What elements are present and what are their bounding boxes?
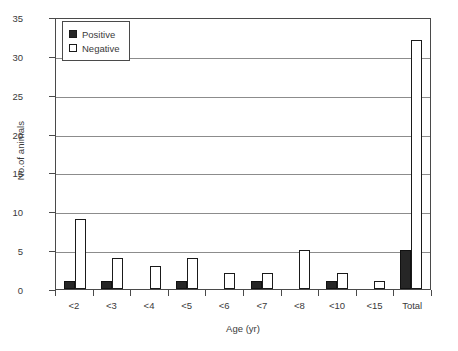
bar-group — [280, 19, 317, 289]
x-tick-label: Total — [382, 300, 442, 311]
x-axis-title: Age (yr) — [55, 323, 431, 334]
bar-group — [243, 19, 280, 289]
x-tick-mark — [243, 290, 244, 296]
y-tick-label: 15 — [0, 168, 23, 179]
bar-group — [131, 19, 168, 289]
y-tick-label: 0 — [0, 285, 23, 296]
x-tick-mark — [205, 290, 206, 296]
x-tick-mark — [393, 290, 394, 296]
chart-figure: No.of animals 05101520253035 <2<3<4<5<6<… — [0, 0, 458, 351]
x-tick-mark — [318, 290, 319, 296]
bar-positive — [64, 281, 75, 289]
x-tick-mark — [431, 290, 432, 296]
bar-negative — [187, 258, 198, 289]
bar-group — [393, 19, 430, 289]
y-tick-label: 25 — [0, 90, 23, 101]
legend-label: Positive — [82, 29, 115, 40]
y-axis-title: No.of animals — [15, 81, 26, 221]
y-tick-label: 10 — [0, 207, 23, 218]
x-tick-mark — [130, 290, 131, 296]
bar-group — [355, 19, 392, 289]
bar-positive — [400, 250, 411, 289]
bar-negative — [299, 250, 310, 289]
x-tick-mark — [281, 290, 282, 296]
bar-negative — [374, 281, 385, 289]
chart-legend: PositiveNegative — [62, 21, 130, 61]
bar-negative — [262, 273, 273, 289]
x-tick-mark — [93, 290, 94, 296]
bar-positive — [251, 281, 262, 289]
bar-positive — [326, 281, 337, 289]
bar-negative — [150, 266, 161, 289]
y-tick-label: 30 — [0, 51, 23, 62]
y-tick-label: 5 — [0, 246, 23, 257]
legend-label: Negative — [82, 43, 120, 54]
bar-negative — [411, 40, 422, 289]
bar-positive — [101, 281, 112, 289]
x-tick-mark — [55, 290, 56, 296]
bar-negative — [224, 273, 235, 289]
legend-swatch-icon — [69, 30, 77, 38]
bar-negative — [112, 258, 123, 289]
y-tick-label: 35 — [0, 13, 23, 24]
y-tick-label: 20 — [0, 129, 23, 140]
bar-group — [168, 19, 205, 289]
bar-negative — [337, 273, 348, 289]
legend-item: Negative — [69, 41, 120, 55]
x-tick-mark — [168, 290, 169, 296]
legend-item: Positive — [69, 27, 120, 41]
x-tick-mark — [356, 290, 357, 296]
bar-positive — [176, 281, 187, 289]
bar-group — [206, 19, 243, 289]
legend-swatch-icon — [69, 44, 77, 52]
bar-group — [318, 19, 355, 289]
bar-negative — [75, 219, 86, 289]
